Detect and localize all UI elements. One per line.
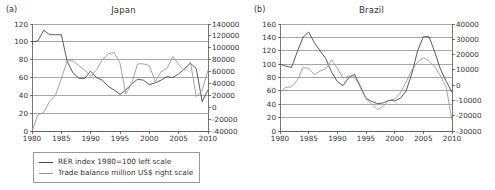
chart-panel-japan: (a) Japan 020406080100120-40000-20000020… [0,0,247,190]
chart-panel-brazil: (b) Brazil 020406080100120140160-30000-2… [248,0,495,190]
svg-text:100000: 100000 [212,43,240,52]
svg-text:120: 120 [14,20,28,29]
legend-label-rer: RER index 1980=100 left scale [58,157,171,167]
svg-text:1980: 1980 [271,134,290,143]
legend-item-trade: Trade balance million US$ right scale [39,168,193,178]
svg-text:140000: 140000 [212,20,240,29]
svg-text:20: 20 [267,113,277,122]
chart-svg-brazil: 020406080100120140160-30000-20000-100000… [248,0,495,150]
svg-text:100: 100 [14,37,28,46]
svg-text:1980: 1980 [23,134,42,143]
chart-svg-japan: 020406080100120-40000-200000200004000060… [0,0,247,150]
svg-text:40: 40 [19,91,29,100]
svg-text:1990: 1990 [82,134,101,143]
legend-swatch-rer-icon [39,162,53,163]
svg-text:-10000: -10000 [456,96,482,105]
svg-text:1985: 1985 [300,134,318,143]
svg-text:-20000: -20000 [212,115,238,124]
svg-text:120000: 120000 [212,31,240,40]
svg-text:60: 60 [19,73,29,82]
svg-text:80000: 80000 [212,55,235,64]
svg-text:140: 140 [262,33,276,42]
svg-text:1995: 1995 [357,134,375,143]
svg-text:10000: 10000 [456,65,479,74]
svg-text:60: 60 [267,86,277,95]
svg-text:2010: 2010 [443,134,462,143]
svg-text:120: 120 [262,46,276,55]
svg-text:40: 40 [267,100,277,109]
svg-text:80: 80 [267,73,277,82]
svg-text:-20000: -20000 [456,111,482,120]
svg-text:2005: 2005 [170,134,188,143]
svg-text:1995: 1995 [111,134,129,143]
svg-text:0: 0 [212,103,217,112]
legend-label-trade: Trade balance million US$ right scale [58,168,193,178]
svg-text:0: 0 [456,81,461,90]
svg-text:1985: 1985 [52,134,70,143]
svg-text:40000: 40000 [212,79,235,88]
legend-japan: RER index 1980=100 left scale Trade bala… [33,152,200,183]
plot-area-japan: 020406080100120-40000-200000200004000060… [0,0,247,150]
svg-text:2005: 2005 [414,134,432,143]
svg-text:2010: 2010 [199,134,218,143]
legend-swatch-trade-icon [39,173,53,174]
svg-text:60000: 60000 [212,67,235,76]
legend-item-rer: RER index 1980=100 left scale [39,157,193,167]
svg-text:1990: 1990 [328,134,347,143]
svg-text:100: 100 [262,60,276,69]
svg-text:30000: 30000 [456,35,479,44]
figure-root: (a) Japan 020406080100120-40000-20000020… [0,0,495,190]
svg-text:160: 160 [262,20,276,29]
svg-text:20: 20 [19,109,29,118]
svg-text:40000: 40000 [456,20,479,29]
svg-text:2000: 2000 [140,134,159,143]
svg-text:80: 80 [19,55,29,64]
plot-area-brazil: 020406080100120140160-30000-20000-100000… [248,0,495,150]
svg-text:2000: 2000 [386,134,405,143]
svg-text:20000: 20000 [456,50,479,59]
svg-text:20000: 20000 [212,91,235,100]
